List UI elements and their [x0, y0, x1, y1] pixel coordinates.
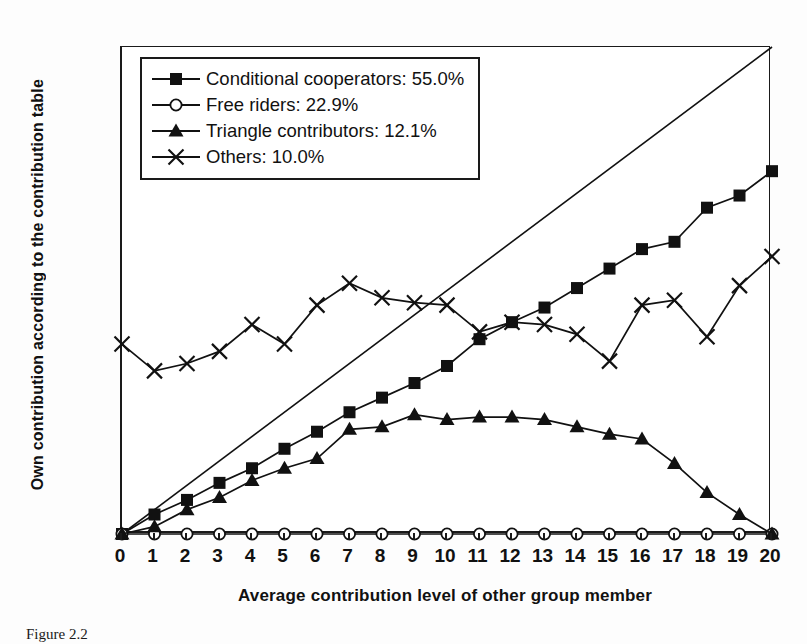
legend-item: Conditional cooperators: 55.0% [150, 66, 464, 92]
legend-marker-filled-square-icon [150, 68, 202, 90]
x-tick-label: 13 [532, 545, 553, 567]
square-marker-icon [344, 406, 356, 418]
x-tick-mark [673, 533, 675, 540]
square-marker-icon [409, 377, 421, 389]
x-tick-label: 14 [564, 545, 585, 567]
series-line [122, 415, 772, 534]
x-tick-label: 17 [662, 545, 683, 567]
triangle-marker-icon [505, 410, 520, 423]
data-point-filled-triangle [667, 456, 682, 469]
legend-label: Free riders: 22.9% [202, 94, 358, 116]
x-tick-label: 9 [407, 545, 418, 567]
data-point-filled-triangle [147, 519, 162, 532]
data-point-filled-triangle [212, 490, 227, 503]
data-point-cross-x [245, 317, 260, 332]
x-tick-label: 6 [310, 545, 321, 567]
x-tick-label: 1 [147, 545, 158, 567]
legend-label: Conditional cooperators: 55.0% [202, 68, 464, 90]
triangle-marker-icon [375, 419, 390, 432]
x-tick-mark [250, 533, 252, 540]
series-triangle-contributors [115, 407, 780, 539]
square-marker-icon [246, 462, 258, 474]
data-point-filled-triangle [505, 410, 520, 423]
data-point-open-circle [170, 99, 181, 110]
legend-item: Free riders: 22.9% [150, 92, 464, 118]
legend-label: Triangle contributors: 12.1% [202, 120, 437, 142]
circle-marker-icon [170, 99, 181, 110]
triangle-marker-icon [472, 410, 487, 423]
square-marker-icon [571, 282, 583, 294]
square-marker-icon [636, 243, 648, 255]
x-tick-label: 7 [342, 545, 353, 567]
data-point-cross-x [732, 278, 747, 293]
x-tick-label: 12 [499, 545, 520, 567]
data-point-filled-square [311, 426, 323, 438]
figure-caption: Figure 2.2 [26, 626, 88, 643]
triangle-marker-icon [732, 507, 747, 520]
figure-root: Own contribution according to the contri… [0, 0, 807, 644]
data-point-filled-triangle [375, 419, 390, 432]
x-tick-label: 0 [115, 545, 126, 567]
data-point-cross-x [310, 298, 325, 313]
legend-item: Others: 10.0% [150, 144, 464, 170]
x-tick-label: 4 [245, 545, 256, 567]
square-marker-icon [279, 443, 291, 455]
square-marker-icon [604, 263, 616, 275]
data-point-filled-square [376, 392, 388, 404]
data-point-filled-square [279, 443, 291, 455]
data-point-filled-triangle [732, 507, 747, 520]
x-tick-mark [608, 533, 610, 540]
data-point-filled-square [441, 360, 453, 372]
data-point-filled-square [170, 73, 182, 85]
legend-marker-filled-triangle-icon [150, 120, 202, 142]
x-tick-mark [445, 533, 447, 540]
data-point-cross-x [180, 356, 195, 371]
chart-legend: Conditional cooperators: 55.0%Free rider… [140, 57, 480, 180]
x-tick-label: 18 [694, 545, 715, 567]
data-point-filled-square [701, 202, 713, 214]
square-marker-icon [311, 426, 323, 438]
data-point-filled-square [734, 190, 746, 202]
data-point-filled-square [539, 302, 551, 314]
data-point-cross-x [277, 337, 292, 352]
data-point-cross-x [765, 249, 780, 264]
x-tick-label: 19 [727, 545, 748, 567]
series-others [115, 249, 780, 378]
square-marker-icon [149, 509, 161, 521]
data-point-filled-square [571, 282, 583, 294]
triangle-marker-icon [147, 519, 162, 532]
x-tick-label: 2 [180, 545, 191, 567]
x-tick-mark [218, 533, 220, 540]
x-tick-label: 5 [277, 545, 288, 567]
data-point-cross-x [147, 363, 162, 378]
legend-marker-open-circle-icon [150, 94, 202, 116]
x-tick-mark [348, 533, 350, 540]
triangle-marker-icon [407, 407, 422, 420]
square-marker-icon [701, 202, 713, 214]
x-tick-label: 16 [629, 545, 650, 567]
square-marker-icon [734, 190, 746, 202]
x-tick-label: 20 [759, 545, 780, 567]
triangle-marker-icon [169, 124, 184, 137]
square-marker-icon [170, 73, 182, 85]
data-point-filled-square [766, 165, 778, 177]
x-axis-title: Average contribution level of other grou… [120, 586, 770, 606]
data-point-filled-square [669, 236, 681, 248]
x-tick-label: 11 [467, 545, 487, 567]
square-marker-icon [441, 360, 453, 372]
x-tick-mark [640, 533, 642, 540]
data-point-filled-square [214, 477, 226, 489]
x-tick-mark [413, 533, 415, 540]
legend-marker-cross-x-icon [150, 146, 202, 168]
x-tick-mark [770, 533, 772, 540]
data-point-cross-x [700, 329, 715, 344]
x-tick-mark [380, 533, 382, 540]
x-tick-mark [510, 533, 512, 540]
data-point-filled-square [636, 243, 648, 255]
triangle-marker-icon [245, 473, 260, 486]
data-point-filled-square [149, 509, 161, 521]
y-axis-ticks: 02468101214161820 [0, 0, 120, 644]
data-point-cross-x [342, 276, 357, 291]
triangle-marker-icon [212, 490, 227, 503]
data-point-filled-triangle [407, 407, 422, 420]
